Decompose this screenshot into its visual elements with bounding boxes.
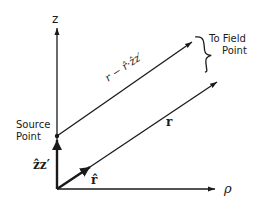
source-offset-label: ẑz′ xyxy=(33,158,50,172)
unit-vector-r-hat xyxy=(57,167,90,189)
field-point-label-line2: Point xyxy=(222,45,247,56)
source-point-label-line2: Point xyxy=(16,131,41,142)
field-point-label-line1: To Field xyxy=(208,33,246,44)
z-axis-label: z xyxy=(52,12,58,26)
rho-axis-label: ρ xyxy=(223,181,232,196)
field-point-diagram: z ρ To Field Point Source Point r − r̂·ẑ… xyxy=(0,0,266,213)
position-vector-label: r xyxy=(166,115,173,129)
unit-vector-label: r̂ xyxy=(91,173,98,187)
source-point-label-line1: Source xyxy=(16,119,50,130)
